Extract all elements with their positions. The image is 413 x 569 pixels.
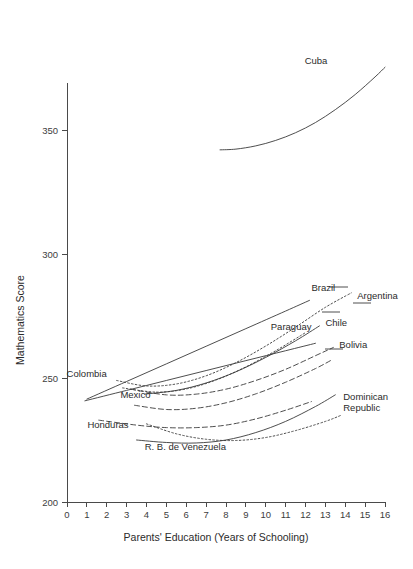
axes: 200250300350012345678910111213141516 bbox=[42, 83, 390, 520]
series-label-dominican-republic: Dominican bbox=[343, 391, 388, 402]
x-tick-label: 6 bbox=[184, 509, 189, 520]
x-tick-label: 9 bbox=[243, 509, 248, 520]
x-tick-label: 0 bbox=[64, 509, 69, 520]
series-label-brazil: Brazil bbox=[311, 282, 335, 293]
series-label-cuba: Cuba bbox=[305, 55, 328, 66]
series-label-dominican-republic-line2: Republic bbox=[343, 402, 380, 413]
y-axis-title: Mathematics Score bbox=[14, 275, 26, 365]
x-tick-label: 14 bbox=[340, 509, 351, 520]
series-line-brazil bbox=[87, 300, 310, 399]
series-label-paraguay: Paraguay bbox=[271, 321, 312, 332]
chart-canvas: 200250300350012345678910111213141516 Cub… bbox=[0, 0, 413, 569]
series-line-mexico bbox=[135, 360, 332, 410]
series-lines bbox=[85, 67, 385, 443]
x-tick-label: 2 bbox=[104, 509, 109, 520]
y-tick-label: 350 bbox=[42, 125, 58, 136]
y-tick-label: 250 bbox=[42, 373, 58, 384]
x-tick-label: 12 bbox=[300, 509, 311, 520]
x-tick-label: 15 bbox=[360, 509, 371, 520]
series-label-chile: Chile bbox=[325, 317, 347, 328]
series-line-chile bbox=[145, 326, 320, 394]
x-tick-label: 13 bbox=[320, 509, 331, 520]
series-label-mexico: Mexico bbox=[120, 389, 150, 400]
x-tick-label: 11 bbox=[281, 509, 291, 520]
series-label-honduras: Honduras bbox=[87, 419, 128, 430]
x-tick-label: 3 bbox=[124, 509, 129, 520]
mathematics-score-chart: 200250300350012345678910111213141516 Cub… bbox=[0, 0, 413, 569]
x-tick-label: 10 bbox=[260, 509, 271, 520]
series-label-argentina: Argentina bbox=[357, 290, 398, 301]
x-axis-title: Parents' Education (Years of Schooling) bbox=[124, 531, 309, 543]
x-tick-label: 5 bbox=[164, 509, 169, 520]
x-tick-label: 7 bbox=[203, 509, 208, 520]
x-tick-label: 8 bbox=[223, 509, 228, 520]
series-line-cuba bbox=[220, 67, 385, 150]
x-tick-label: 16 bbox=[380, 509, 391, 520]
x-tick-label: 4 bbox=[144, 509, 149, 520]
x-tick-label: 1 bbox=[84, 509, 89, 520]
series-line-bolivia bbox=[131, 348, 334, 396]
series-label-colombia: Colombia bbox=[67, 368, 108, 379]
y-tick-label: 300 bbox=[42, 249, 58, 260]
y-tick-label: 200 bbox=[42, 497, 58, 508]
series-label-r-b-de-venezuela: R. B. de Venezuela bbox=[145, 441, 227, 452]
series-line-paraguay bbox=[123, 333, 306, 393]
series-labels: CubaBrazilArgentinaParaguayChileColombia… bbox=[67, 55, 399, 452]
series-label-bolivia: Bolivia bbox=[339, 339, 368, 350]
series-line-r-b-de-venezuela bbox=[137, 395, 336, 443]
